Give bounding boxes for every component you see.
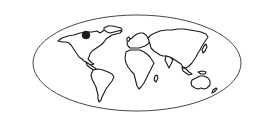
island-british-isles [127, 37, 130, 41]
location-marker-dot[interactable] [82, 31, 90, 39]
world-map: World map Location mar [0, 0, 263, 121]
world-map-graphic [0, 0, 263, 121]
